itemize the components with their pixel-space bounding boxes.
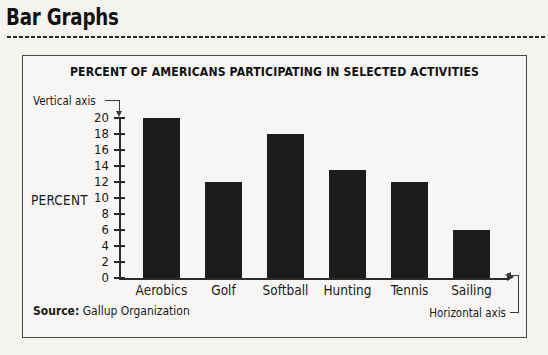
source-label: Source: — [33, 304, 79, 318]
bar — [391, 182, 428, 278]
bar — [453, 230, 490, 278]
y-axis-tick-label: 8 — [65, 207, 109, 220]
bar-chart-plot: PERCENT 20181614121086420 AerobicsGolfSo… — [23, 56, 528, 339]
horizontal-axis-line — [119, 278, 509, 280]
y-axis-tick — [114, 181, 125, 183]
y-axis-tick-label: 4 — [65, 239, 109, 252]
y-axis-tick — [114, 261, 125, 263]
y-axis-tick-label: 12 — [65, 175, 109, 188]
y-axis-tick-label: 10 — [65, 191, 109, 204]
x-axis-category-label: Sailing — [432, 282, 512, 298]
horizontal-axis-leader-arrow-icon — [505, 272, 511, 278]
y-axis-tick-label: 18 — [65, 127, 109, 140]
horizontal-axis-leader-line-up — [518, 275, 519, 313]
vertical-axis-annotation: Vertical axis — [33, 94, 96, 108]
dotted-divider — [6, 34, 546, 38]
vertical-axis-leader-arrow-icon — [116, 111, 122, 117]
figure-container: PERCENT OF AMERICANS PARTICIPATING IN SE… — [22, 55, 527, 338]
y-axis-tick-label: 6 — [65, 223, 109, 236]
y-axis-tick — [114, 277, 125, 279]
y-axis-tick-label: 14 — [65, 159, 109, 172]
y-axis-tick — [114, 133, 125, 135]
bar — [267, 134, 304, 278]
y-axis-tick-label: 2 — [65, 255, 109, 268]
y-axis-tick — [114, 149, 125, 151]
source-note: Source: Gallup Organization — [33, 304, 190, 318]
bar — [329, 170, 366, 278]
y-axis-tick — [114, 197, 125, 199]
y-axis-tick — [114, 165, 125, 167]
horizontal-axis-leader-line-top — [510, 275, 519, 276]
y-axis-tick — [114, 213, 125, 215]
horizontal-axis-annotation: Horizontal axis — [429, 306, 506, 320]
y-axis-tick-label: 16 — [65, 143, 109, 156]
page-title: Bar Graphs — [6, 2, 478, 32]
bar — [205, 182, 242, 278]
bar — [143, 118, 180, 278]
vertical-axis-leader-line — [105, 100, 120, 101]
source-value: Gallup Organization — [83, 304, 190, 318]
page-header: Bar Graphs — [6, 2, 542, 34]
y-axis-tick — [114, 117, 125, 119]
y-axis-tick — [114, 229, 125, 231]
y-axis-tick-label: 20 — [65, 111, 109, 124]
y-axis-tick-label: 0 — [65, 271, 109, 284]
y-axis-tick — [114, 245, 125, 247]
